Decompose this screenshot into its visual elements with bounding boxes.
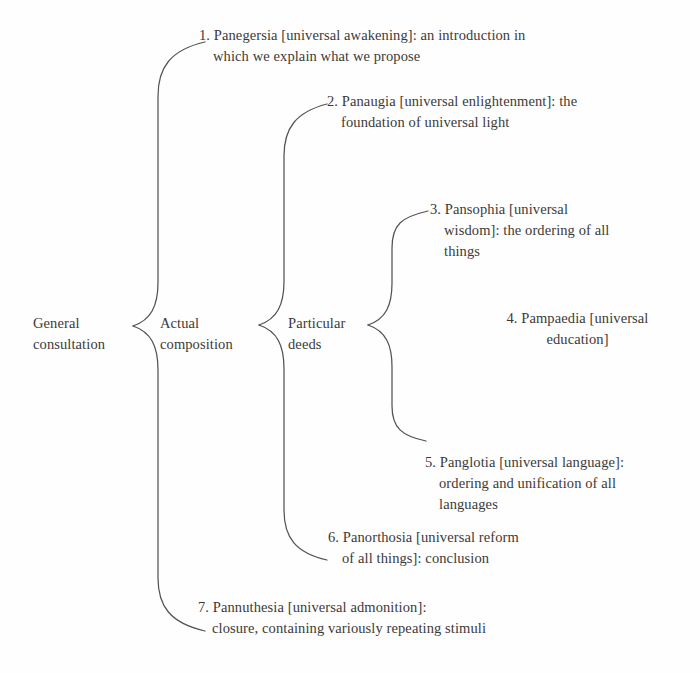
leaf-item-panglotia: 5. Panglotia [universal language]: order… [425, 452, 665, 515]
leaf-line: ordering and unification of all [425, 473, 665, 494]
brace-3-upper [368, 211, 428, 325]
brace-2-lower [259, 325, 327, 560]
brace-2-upper [259, 104, 327, 325]
leaf-line: 6. Panorthosia [universal reform [328, 527, 618, 548]
leaf-line: closure, containing variously repeating … [198, 618, 618, 639]
brace-1-upper [133, 42, 205, 326]
node-label-line: General [33, 313, 105, 334]
node-general-consultation: General consultation [33, 313, 105, 355]
node-label-line: deeds [288, 334, 345, 355]
leaf-line: foundation of universal light [327, 112, 657, 133]
brace-1-lower [133, 326, 205, 631]
leaf-line: things [430, 241, 620, 262]
leaf-line: 5. Panglotia [universal language]: [425, 452, 665, 473]
node-label-line: composition [160, 334, 233, 355]
leaf-line: 7. Pannuthesia [universal admonition]: [198, 597, 618, 618]
leaf-line: 2. Panaugia [universal enlightenment]: t… [327, 91, 657, 112]
leaf-line: of all things]: conclusion [328, 548, 618, 569]
node-label-line: Actual [160, 313, 233, 334]
node-label-line: consultation [33, 334, 105, 355]
leaf-line: languages [425, 494, 665, 515]
leaf-line: wisdom]: the ordering of all [430, 220, 620, 241]
leaf-line: 4. Pampaedia [universal [470, 308, 685, 329]
leaf-item-panorthosia: 6. Panorthosia [universal reform of all … [328, 527, 618, 569]
leaf-item-panegersia: 1. Panegersia [universal awakening]: an … [199, 25, 599, 67]
leaf-item-pannuthesia: 7. Pannuthesia [universal admonition]: c… [198, 597, 618, 639]
leaf-line: which we explain what we propose [199, 46, 599, 67]
leaf-line: 3. Pansophia [universal [430, 199, 620, 220]
brace-3-lower [368, 325, 426, 441]
leaf-item-panaugia: 2. Panaugia [universal enlightenment]: t… [327, 91, 657, 133]
node-label-line: Particular [288, 313, 345, 334]
leaf-item-pansophia: 3. Pansophia [universal wisdom]: the ord… [430, 199, 620, 262]
leaf-line: education] [470, 329, 685, 350]
leaf-line: 1. Panegersia [universal awakening]: an … [199, 25, 599, 46]
diagram-canvas: General consultation Actual composition … [0, 0, 700, 673]
node-actual-composition: Actual composition [160, 313, 233, 355]
node-particular-deeds: Particular deeds [288, 313, 345, 355]
leaf-item-pampaedia: 4. Pampaedia [universal education] [470, 308, 685, 350]
